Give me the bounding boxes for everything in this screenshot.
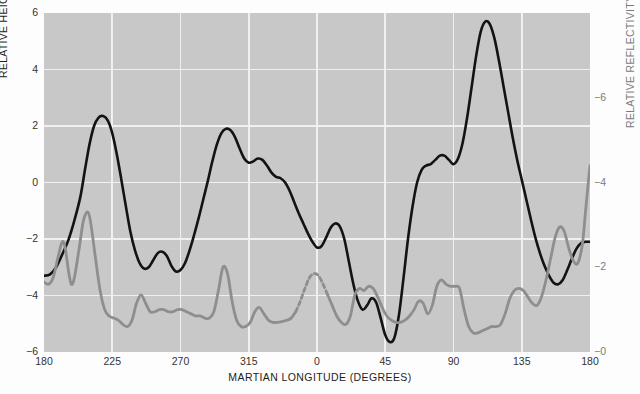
plot-area [44,13,590,352]
y-tick-right-0: −6 [594,91,606,103]
y-axis-right-label: RELATIVE REFLECTIVITY [624,0,636,128]
y-tick-left-4: 4 [8,63,38,75]
y-tick-right-1: −4 [594,176,606,188]
x-tick-6: 90 [434,355,474,367]
y-tick-left-−4: −4 [8,289,38,301]
x-tick-1: 225 [92,355,132,367]
x-tick-2: 270 [161,355,201,367]
x-tick-5: 45 [365,355,405,367]
y-tick-right-2: −2 [594,260,606,272]
x-tick-3: 315 [229,355,269,367]
y-tick-left-−2: −2 [8,232,38,244]
y-tick-left-0: 0 [8,176,38,188]
x-tick-4: 0 [297,355,337,367]
x-tick-7: 135 [502,355,542,367]
y-axis-left-label: RELATIVE HEIGHT (KILOMETERS) [0,0,9,78]
chart-figure: 6420−2−4−6 −6−4−2−0 18022527031504590135… [0,0,640,394]
series-line-relative-reflectivity [296,274,328,312]
series-line-relative-reflectivity [44,212,296,327]
y-tick-left-6: 6 [8,6,38,18]
plot-canvas [44,13,590,352]
x-tick-0: 180 [24,355,64,367]
x-axis-label: MARTIAN LONGITUDE (DEGREES) [0,371,640,383]
y-tick-left-2: 2 [8,119,38,131]
x-tick-8: 180 [570,355,610,367]
series-line-relative-reflectivity [328,166,590,334]
